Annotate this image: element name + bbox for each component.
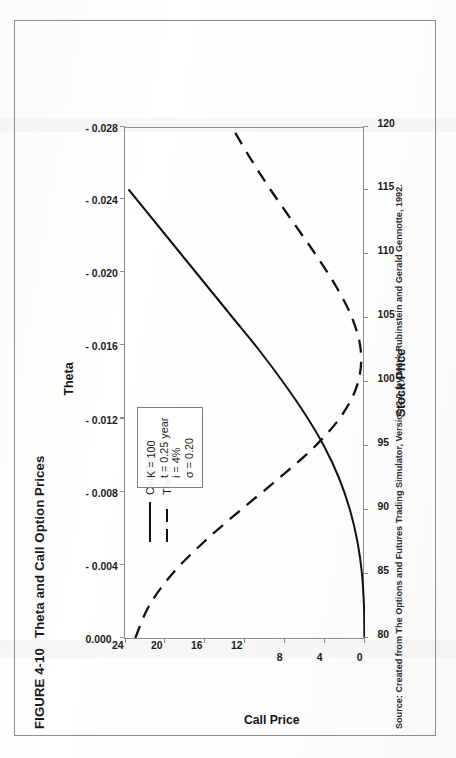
theta-tick-label: - 0.028 [86, 123, 118, 134]
call-price-tick [125, 638, 126, 643]
theta-tick-label: - 0.020 [86, 268, 118, 279]
stock-price-tick [363, 573, 368, 574]
figure-caption: FIGURE 4-10Theta and Call Option Prices [32, 456, 47, 729]
secondary-axis-title-theta: Theta [62, 29, 76, 729]
theta-tick [120, 417, 125, 418]
stock-price-tick-label: 105 [378, 309, 395, 320]
theta-tick-label: 0.000 [86, 634, 112, 645]
call-price-tick [364, 638, 365, 643]
figure-title: Theta and Call Option Prices [32, 456, 47, 638]
theta-tick-label: - 0.012 [86, 414, 118, 425]
param-time: t = 0.25 year [158, 418, 171, 478]
stock-price-tick [363, 189, 368, 190]
chart-area: Theta [66, 29, 366, 729]
legend-key-dashed-icon [161, 502, 172, 542]
figure-number: FIGURE 4-10 [32, 648, 47, 729]
call-price-tick-label: 12 [231, 640, 243, 651]
param-vol: σ = 0.20 [183, 418, 196, 478]
call-price-tick-label: 24 [112, 640, 124, 651]
param-strike: K = 100 [145, 418, 158, 478]
call-price-tick [324, 638, 325, 643]
stock-price-tick [363, 317, 368, 318]
call-price-tick-label: 16 [191, 640, 203, 651]
stock-price-tick [363, 381, 368, 382]
legend-key-solid-icon [144, 502, 155, 542]
call-price-tick [284, 638, 285, 643]
theta-tick-label: - 0.008 [86, 487, 118, 498]
theta-tick [120, 271, 125, 272]
call-price-tick [204, 638, 205, 643]
stock-price-tick [363, 126, 368, 127]
parameter-box: K = 100 t = 0.25 year i = 4% σ = 0.20 [137, 407, 203, 488]
theta-tick-label: - 0.024 [86, 195, 118, 206]
call-price-tick-label: 0 [357, 652, 363, 663]
call-price-tick [164, 638, 165, 643]
theta-tick [120, 198, 125, 199]
stock-price-tick-label: 90 [378, 501, 390, 512]
theta-curve [135, 126, 361, 638]
stock-price-tick [363, 509, 368, 510]
call-price-tick-label: 4 [317, 652, 323, 663]
stock-price-tick-label: 115 [378, 181, 395, 192]
param-rate: i = 4% [170, 418, 183, 478]
call-price-tick-label: 20 [151, 640, 163, 651]
stock-price-tick [363, 445, 368, 446]
stock-price-tick-label: 85 [378, 565, 390, 576]
theta-tick [120, 564, 125, 565]
call-price-tick [244, 638, 245, 643]
stock-price-tick-label: 80 [378, 629, 390, 640]
call-price-tick-label: 8 [277, 652, 283, 663]
plot-frame: Call Price Theta K = 100 t = 0.25 year i… [124, 127, 364, 639]
theta-tick [120, 344, 125, 345]
stock-price-tick [363, 253, 368, 254]
y-axis-title-call-price: Call Price [244, 713, 300, 727]
theta-tick [120, 491, 125, 492]
source-note: Source: Created from The Options and Fut… [394, 184, 404, 729]
stock-price-tick-label: 120 [378, 118, 395, 129]
stock-price-tick-label: 100 [378, 373, 395, 384]
theta-tick-label: - 0.016 [86, 341, 118, 352]
theta-tick [120, 126, 125, 127]
figure-canvas: FIGURE 4-10Theta and Call Option Prices … [26, 29, 430, 729]
theta-tick-label: - 0.004 [86, 560, 118, 571]
stock-price-tick-label: 95 [378, 437, 390, 448]
stock-price-tick-label: 110 [378, 245, 395, 256]
plot-curves [125, 126, 365, 638]
